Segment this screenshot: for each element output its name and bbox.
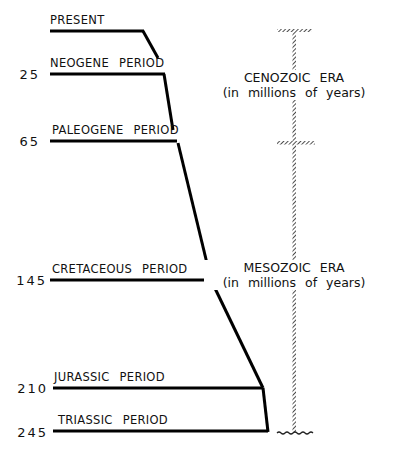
connector-present (143, 31, 158, 58)
age-65: 65 (0, 135, 40, 148)
connector-neogene (164, 74, 173, 130)
era-cenozoic-unit: (in millions of years) (204, 85, 384, 100)
era-cenozoic-name: CENOZOIC ERA (204, 70, 384, 85)
era-cenozoic: CENOZOIC ERA (in millions of years) (204, 70, 384, 100)
label-triassic: TRIASSIC PERIOD (58, 415, 168, 427)
label-jurassic: JURASSIC PERIOD (54, 372, 165, 384)
era-cap-bottom (277, 432, 313, 434)
label-paleogene: PALEOGENE PERIOD (52, 125, 179, 137)
age-210: 210 (8, 382, 48, 395)
era-cap-top (277, 29, 312, 32)
connector-cretaceous (211, 280, 263, 388)
era-mesozoic-name: MESOZOIC ERA (204, 260, 384, 275)
connector-jurassic (263, 388, 268, 432)
label-cretaceous: CRETACEOUS PERIOD (52, 264, 187, 276)
age-145: 145 (7, 274, 47, 287)
label-present: PRESENT (50, 15, 105, 27)
era-mesozoic-unit: (in millions of years) (204, 275, 384, 290)
era-cap-boundary (277, 141, 315, 145)
age-245: 245 (8, 426, 48, 439)
era-mesozoic: MESOZOIC ERA (in millions of years) (204, 260, 384, 290)
age-25: 25 (0, 68, 40, 81)
label-neogene: NEOGENE PERIOD (50, 58, 164, 70)
